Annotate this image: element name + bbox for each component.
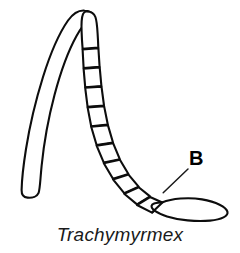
funicular-segment-5: [91, 125, 113, 145]
figure-caption: Trachymyrmex: [0, 224, 240, 246]
funicular-segment-3: [85, 87, 104, 107]
pedicel-segment: [81, 11, 98, 48]
funicular-segment-2: [84, 67, 102, 87]
callout-label-b: B: [189, 148, 203, 168]
antenna-figure: B Trachymyrmex: [0, 0, 240, 253]
antenna-line-drawing: [0, 0, 240, 253]
antennal-club: [152, 198, 228, 221]
funicular-segment-4: [88, 106, 108, 126]
funicular-segment-1: [83, 48, 100, 68]
callout-leader-line: [163, 169, 188, 193]
